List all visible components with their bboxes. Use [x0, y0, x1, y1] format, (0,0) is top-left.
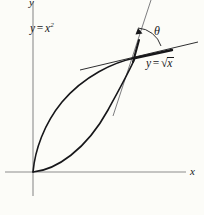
x-axis-label: x: [190, 166, 195, 177]
label-sqrt-operator: =: [151, 57, 161, 69]
label-parabola-exponent: 2: [50, 21, 54, 29]
figure-canvas: y=x2 y=√x θ x y: [0, 0, 204, 215]
angle-label-theta: θ: [154, 25, 160, 37]
curve-square-root: [33, 58, 135, 172]
curve-label-parabola: y=x2: [30, 23, 54, 35]
curve-label-square-root: y=√x: [146, 57, 174, 70]
label-sqrt-radicand: x: [167, 57, 173, 70]
label-parabola-operator: =: [35, 22, 45, 34]
y-axis-label: y: [29, 0, 34, 8]
curve-parabola: [33, 58, 135, 172]
